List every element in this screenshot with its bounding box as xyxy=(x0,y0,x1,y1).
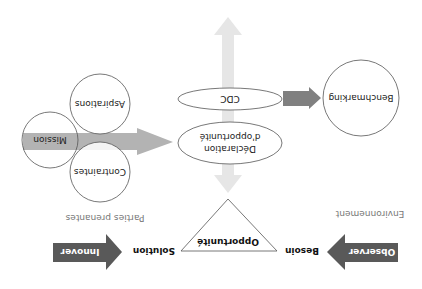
besoin-label: Besoin xyxy=(285,246,319,256)
aspirations-label: Aspirations xyxy=(75,99,126,109)
diagram-svg: Opportunité Déclaration d'opportunité CD… xyxy=(0,0,422,289)
cdc-label: CDC xyxy=(220,94,240,104)
declaration-line1: Déclaration xyxy=(204,144,256,154)
stakeholders-label: Parties prenantes xyxy=(65,213,144,223)
opportunity-label: Opportunité xyxy=(197,237,259,247)
benchmarking-arrow xyxy=(283,87,321,109)
solution-label: Solution xyxy=(133,246,175,256)
declaration-line2: d'opportunité xyxy=(199,132,260,142)
contraintes-label: Contraintes xyxy=(74,167,127,177)
environment-label: Environnement xyxy=(335,209,404,219)
declaration-ellipse xyxy=(178,122,282,164)
observer-arrow-label: Observer xyxy=(348,247,395,257)
diagram-canvas: Opportunité Déclaration d'opportunité CD… xyxy=(0,0,422,289)
benchmarking-label: Benchmarking xyxy=(328,93,393,103)
mission-label: Mission xyxy=(33,135,66,145)
innover-arrow-label: Innover xyxy=(60,247,99,257)
